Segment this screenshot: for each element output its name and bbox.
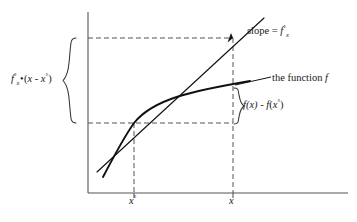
left-brace (63, 38, 76, 123)
delta-f-arg1: (x) (246, 99, 258, 110)
slope-symbol-sub: x (286, 31, 289, 38)
function-label: the function f (272, 73, 328, 84)
axis-tick-x-base: x (229, 195, 234, 206)
slope-label: slope = f°x (247, 26, 289, 37)
figure-canvas: slope = f°x the function f f(x) - f(x°) … (0, 0, 357, 222)
function-leader-line (235, 77, 271, 85)
linear-term-sup: ° (14, 72, 17, 79)
axis-tick-label-x0: x° (129, 196, 136, 207)
delta-f-paren-close: ) (280, 99, 284, 110)
linear-term-paren-close: ) (48, 73, 52, 84)
slope-symbol-sup: ° (283, 24, 286, 31)
function-curve (103, 81, 250, 177)
linear-term-minus: - (32, 73, 41, 84)
diagram-svg (0, 0, 357, 222)
axis-tick-x0-sup: ° (134, 194, 137, 201)
function-label-text: the function (272, 72, 325, 83)
delta-f-label: f(x) - f(x°) (243, 100, 284, 111)
slope-label-text: slope = (247, 25, 280, 36)
function-symbol: f (325, 72, 328, 83)
linear-term-label: f°x•(x - x°) (11, 74, 52, 85)
axis-tick-label-x: x (229, 196, 234, 207)
